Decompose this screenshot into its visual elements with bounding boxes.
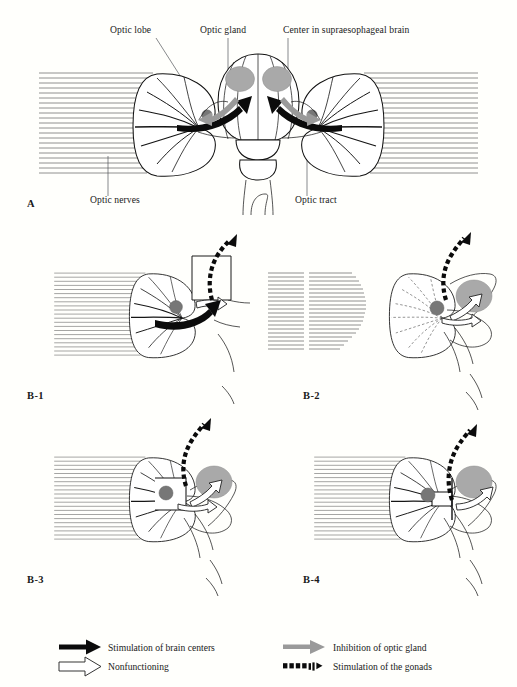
label-optic-nerves: Optic nerves — [90, 194, 140, 205]
panel-b4: B-4 — [303, 424, 496, 596]
legend-label-inhibition-gland: Inhibition of optic gland — [333, 642, 427, 653]
label-optic-tract: Optic tract — [295, 194, 337, 205]
b1-brain-edge — [214, 300, 250, 404]
panel-b1: B-1 — [27, 234, 250, 404]
legend-item-inhibition-gland: Inhibition of optic gland — [283, 640, 427, 654]
figure-root: Optic lobe Optic gland Center in supraes… — [0, 0, 517, 687]
b2-optic-nerves-severed — [268, 273, 366, 349]
legend-item-stimulation-brain: Stimulation of brain centers — [59, 640, 215, 655]
b3-optic-gland-small — [159, 486, 173, 500]
gray-arrow-icon — [283, 640, 325, 654]
b1-optic-gland — [170, 301, 183, 314]
panel-b4-id: B-4 — [303, 574, 320, 585]
panel-b2-id: B-2 — [303, 390, 320, 401]
legend-label-stimulation-brain: Stimulation of brain centers — [108, 642, 215, 653]
b2-optic-gland-small — [430, 301, 444, 315]
panel-b3-id: B-3 — [27, 574, 44, 585]
open-arrow-icon — [59, 657, 101, 676]
legend: Stimulation of brain centers Nonfunction… — [59, 640, 432, 677]
panel-b3: B-3 — [27, 418, 236, 596]
black-arrow-icon — [59, 640, 101, 655]
label-optic-lobe: Optic lobe — [110, 24, 151, 35]
legend-label-nonfunctioning: Nonfunctioning — [108, 661, 169, 672]
legend-label-stimulation-gonads: Stimulation of the gonads — [333, 661, 432, 672]
optic-gland-left-large — [226, 67, 255, 92]
panel-a-id: A — [27, 198, 35, 209]
b4-optic-gland-small — [421, 488, 435, 502]
label-optic-gland: Optic gland — [200, 24, 246, 35]
diagram-canvas: Optic lobe Optic gland Center in supraes… — [0, 0, 517, 687]
b1-optic-lobe — [129, 274, 195, 358]
legend-item-nonfunctioning: Nonfunctioning — [59, 657, 169, 676]
optic-gland-right-large — [263, 67, 292, 92]
b2-optic-lobe — [389, 274, 455, 358]
b1-gonad-arrowhead — [227, 234, 237, 247]
panel-b2: B-2 — [268, 232, 496, 410]
label-supraesophageal: Center in supraesophageal brain — [283, 24, 410, 35]
dashed-arrow-icon — [283, 662, 323, 670]
legend-item-stimulation-gonads: Stimulation of the gonads — [283, 661, 432, 672]
panel-b1-id: B-1 — [27, 390, 44, 401]
panel-a: Optic lobe Optic gland Center in supraes… — [27, 24, 478, 215]
